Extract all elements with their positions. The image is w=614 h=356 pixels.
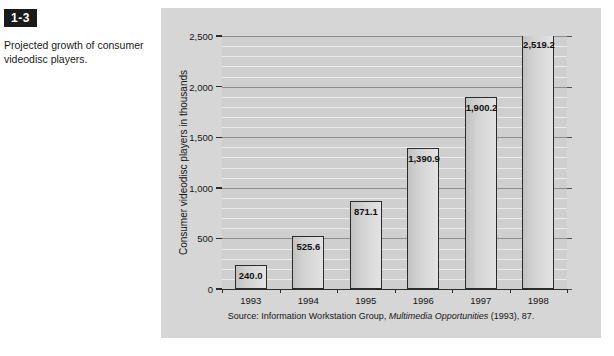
major-gridline (222, 87, 567, 88)
bar-value-label: 2,519.2 (523, 39, 553, 50)
x-tick-mark (337, 289, 338, 293)
minor-gridline (222, 66, 567, 67)
minor-gridline (222, 228, 567, 229)
minor-gridline (222, 208, 567, 209)
y-tick-label: 1,500 (189, 132, 213, 143)
y-tick-label: 500 (197, 233, 213, 244)
minor-gridline (222, 279, 567, 280)
plot-wrapper: 240.0525.6871.11,390.91,900.22,519.2 050… (222, 36, 567, 289)
bar-value-label: 871.1 (351, 206, 381, 217)
right-tick-mark (567, 137, 572, 138)
x-tick-label-1994: 1994 (298, 295, 319, 306)
minor-gridline (222, 168, 567, 169)
bar-1997: 1,900.2 (465, 97, 497, 289)
minor-gridline (222, 46, 567, 47)
minor-gridline (222, 127, 567, 128)
x-axis-line (216, 289, 567, 291)
x-tick-mark (452, 289, 453, 293)
minor-gridline (222, 77, 567, 78)
minor-gridline (222, 117, 567, 118)
right-tick-mark (567, 87, 572, 88)
major-gridline (222, 238, 567, 239)
minor-gridline (222, 178, 567, 179)
y-axis-title: Consumer videodisc players in thousands (177, 36, 191, 289)
y-tick-mark (216, 35, 222, 37)
source-note: Source: Information Workstation Group, M… (161, 311, 601, 321)
y-tick-label: 2,000 (189, 81, 213, 92)
bar-1994: 525.6 (292, 236, 324, 289)
minor-gridline (222, 147, 567, 148)
minor-gridline (222, 249, 567, 250)
right-tick-mark (567, 36, 572, 37)
x-tick-mark (280, 289, 281, 293)
plot-area: 240.0525.6871.11,390.91,900.22,519.2 (222, 36, 567, 289)
source-title: Multimedia Opportunities (389, 311, 489, 321)
x-tick-label-1996: 1996 (413, 295, 434, 306)
x-tick-label-1993: 1993 (240, 295, 261, 306)
x-tick-mark (222, 289, 223, 293)
y-tick-mark (216, 86, 222, 88)
figure-caption-text: Projected growth of consumer videodisc p… (4, 38, 148, 67)
x-tick-mark (395, 289, 396, 293)
major-gridline (222, 188, 567, 189)
minor-gridline (222, 107, 567, 108)
minor-gridline (222, 198, 567, 199)
chart-panel: Consumer videodisc players in thousands … (161, 8, 601, 338)
y-tick-mark (216, 187, 222, 189)
figure-caption-block: 1-3 Projected growth of consumer videodi… (4, 8, 154, 67)
x-axis-labels: 199319941995199619971998 (222, 292, 567, 308)
minor-gridline (222, 56, 567, 57)
x-tick-mark (510, 289, 511, 293)
source-prefix: Source: Information Workstation Group, (228, 311, 389, 321)
bar-1998: 2,519.2 (522, 36, 554, 289)
bar-value-label: 240.0 (236, 270, 266, 281)
right-axis-ticks (567, 36, 572, 289)
x-tick-label-1997: 1997 (470, 295, 491, 306)
source-suffix: (1993), 87. (488, 311, 534, 321)
bar-value-label: 1,390.9 (408, 153, 438, 164)
minor-gridline (222, 218, 567, 219)
y-tick-label: 2,500 (189, 31, 213, 42)
bar-1993: 240.0 (235, 265, 267, 289)
y-tick-label: 1,000 (189, 182, 213, 193)
y-tick-label: 0 (208, 284, 213, 295)
x-tick-label-1998: 1998 (528, 295, 549, 306)
right-tick-mark (567, 188, 572, 189)
y-axis-title-label: Consumer videodisc players in thousands (179, 70, 190, 255)
bar-1996: 1,390.9 (407, 148, 439, 289)
bar-value-label: 525.6 (293, 241, 323, 252)
right-tick-mark (567, 238, 572, 239)
x-tick-mark (567, 289, 568, 293)
x-tick-label-1995: 1995 (355, 295, 376, 306)
bar-1995: 871.1 (350, 201, 382, 289)
minor-gridline (222, 157, 567, 158)
y-tick-mark (216, 137, 222, 139)
major-gridline (222, 36, 567, 37)
figure-number-badge: 1-3 (4, 9, 37, 27)
major-gridline (222, 137, 567, 138)
bar-value-label: 1,900.2 (466, 102, 496, 113)
minor-gridline (222, 97, 567, 98)
minor-gridline (222, 269, 567, 270)
y-tick-mark (216, 238, 222, 240)
minor-gridline (222, 259, 567, 260)
